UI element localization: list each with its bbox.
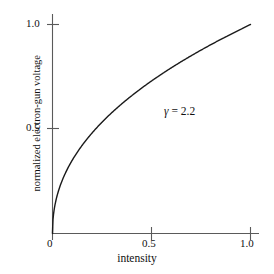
x-tick-label-0.5: 0.5 [142,238,156,249]
gamma-correction-curve [53,25,251,234]
y-axis-label: normalized electron-gun voltage [32,23,43,223]
gamma-correction-chart: 1.0 0.5 0 0.5 1.0 intensity normalized e… [0,0,274,274]
x-tick-label-0: 0 [47,238,53,249]
gamma-value: 2.2 [181,105,195,117]
x-axis-label: intensity [0,253,274,265]
x-tick-label-1.0: 1.0 [240,238,254,249]
gamma-annotation: γ = 2.2 [164,106,195,118]
gamma-symbol: γ [164,105,169,117]
gamma-equals: = [171,105,178,117]
